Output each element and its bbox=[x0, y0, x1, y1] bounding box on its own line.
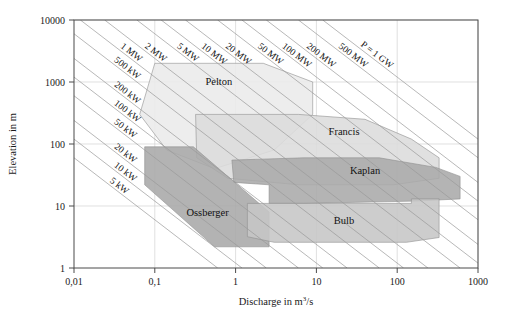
y-tick-label: 10000 bbox=[40, 15, 65, 26]
y-tick-label: 1 bbox=[60, 263, 65, 274]
y-tick-label: 100 bbox=[50, 139, 65, 150]
chart-canvas: 5 kW10 kW20 kW50 kW100 kW200 kW500 kW1 M… bbox=[0, 0, 520, 311]
x-tick-label: 10 bbox=[311, 276, 321, 287]
y-tick-label: 10 bbox=[55, 201, 65, 212]
x-axis-title: Discharge in m3/s bbox=[239, 295, 313, 307]
y-tick-label: 1000 bbox=[45, 77, 65, 88]
y-axis-title: Elevation in m bbox=[7, 113, 18, 175]
turbine-selection-chart: 5 kW10 kW20 kW50 kW100 kW200 kW500 kW1 M… bbox=[0, 0, 520, 311]
x-tick-label: 100 bbox=[390, 276, 405, 287]
zone-label-kaplan: Kaplan bbox=[350, 165, 381, 176]
x-tick-label: 1000 bbox=[468, 276, 488, 287]
zone-label-pelton: Pelton bbox=[205, 76, 233, 87]
zone-label-ossberger: Ossberger bbox=[186, 207, 229, 218]
x-tick-label: 0,1 bbox=[149, 276, 162, 287]
x-tick-label: 1 bbox=[233, 276, 238, 287]
x-tick-label: 0,01 bbox=[65, 276, 83, 287]
zone-label-bulb: Bulb bbox=[334, 215, 354, 226]
zone-label-francis: Francis bbox=[329, 126, 360, 137]
